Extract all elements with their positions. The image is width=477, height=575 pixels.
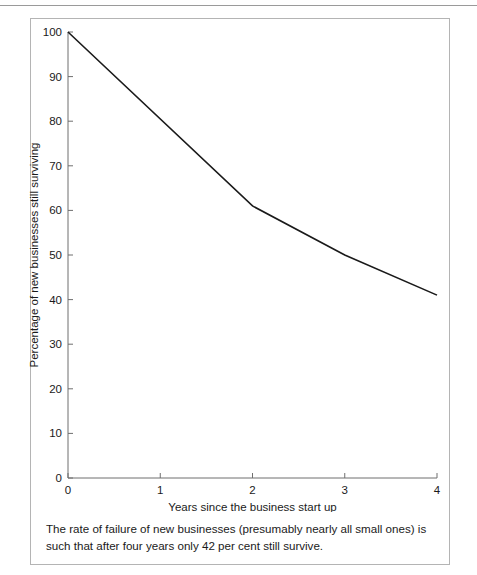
y-tick-label: 0 [56,472,62,484]
x-tick-label: 2 [249,484,255,496]
x-tick-label: 4 [434,484,441,496]
y-tick-label: 20 [49,383,62,395]
x-tick-label: 0 [65,484,71,496]
y-tick-label: 30 [49,338,62,350]
y-tick-label: 70 [49,160,62,172]
y-axis-title: Percentage of new businesses still survi… [28,142,40,367]
y-tick-label: 50 [49,249,62,261]
data-series-line [68,32,437,295]
y-tick-label: 90 [49,71,62,83]
line-chart-svg: 0 10 20 30 40 50 60 70 80 90 100 [0,0,477,512]
x-tick-label: 1 [157,484,163,496]
x-tick-label: 3 [342,484,348,496]
figure-caption: The rate of failure of new businesses (p… [46,521,436,554]
x-axis-title: Years since the business start up [168,501,336,512]
chart-area: 0 10 20 30 40 50 60 70 80 90 100 [0,0,477,512]
y-tick-label: 60 [49,204,62,216]
y-tick-label: 80 [49,115,62,127]
y-tick-label: 100 [43,26,62,38]
x-axis-ticks [68,473,437,478]
y-axis-tick-labels: 0 10 20 30 40 50 60 70 80 90 100 [43,26,62,484]
figure-page: 0 10 20 30 40 50 60 70 80 90 100 [0,0,477,575]
y-tick-label: 10 [49,427,62,439]
x-axis-tick-labels: 0 1 2 3 4 [65,484,441,496]
y-axis-ticks [68,32,73,478]
y-tick-label: 40 [49,294,62,306]
